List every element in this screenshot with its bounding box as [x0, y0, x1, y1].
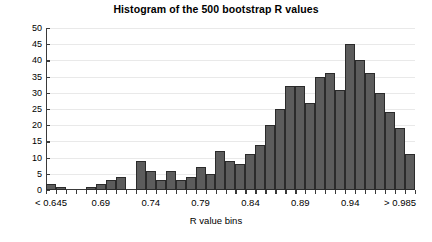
x-tick-mark [116, 190, 117, 194]
histogram-bar [196, 167, 206, 190]
x-tick-mark [166, 190, 167, 194]
x-tick-mark [265, 190, 266, 194]
histogram-bar [345, 44, 355, 190]
histogram-bar [156, 180, 166, 190]
x-tick-label: 0.79 [191, 197, 210, 208]
bar-slot [405, 28, 415, 190]
histogram-bar [305, 103, 315, 190]
bar-slot [196, 28, 206, 190]
histogram-bar [106, 180, 116, 190]
histogram-bar [335, 90, 345, 190]
bar-slot [86, 28, 96, 190]
x-tick-mark [196, 190, 197, 194]
y-tick-mark [46, 44, 50, 45]
bar-slot [295, 28, 305, 190]
bar-slot [166, 28, 176, 190]
x-tick-mark [56, 190, 57, 194]
bar-slot [315, 28, 325, 190]
x-tick-mark [136, 190, 137, 194]
bar-slot [116, 28, 126, 190]
y-tick-label: 15 [2, 137, 42, 146]
x-tick-mark [206, 190, 207, 194]
x-tick-mark [345, 190, 346, 194]
x-tick-mark [355, 190, 356, 194]
y-tick-label: 30 [2, 88, 42, 97]
histogram-bar [116, 177, 126, 190]
bar-slot [325, 28, 335, 190]
y-tick-label: 0 [2, 186, 42, 195]
x-tick-mark [156, 190, 157, 194]
bar-slot [305, 28, 315, 190]
x-tick-label: 0.84 [241, 197, 260, 208]
bar-slot [206, 28, 216, 190]
bar-slot [275, 28, 285, 190]
x-tick-mark [375, 190, 376, 194]
histogram-bar [315, 77, 325, 190]
bar-slot [126, 28, 136, 190]
plot-area [46, 28, 415, 190]
histogram-bar [235, 164, 245, 190]
x-tick-mark [245, 190, 246, 194]
y-axis-ticks: 05101520253035404550 [0, 28, 42, 190]
bar-slot [76, 28, 86, 190]
bar-slot [106, 28, 116, 190]
x-tick-mark [275, 190, 276, 194]
histogram-bars [46, 28, 415, 190]
y-tick-mark [46, 60, 50, 61]
x-axis-label: R value bins [0, 215, 432, 226]
x-tick-mark [415, 190, 416, 194]
bar-slot [385, 28, 395, 190]
x-tick-mark [325, 190, 326, 194]
bar-slot [186, 28, 196, 190]
histogram-bar [166, 171, 176, 190]
histogram-bar [146, 171, 156, 190]
x-tick-mark [305, 190, 306, 194]
y-tick-label: 25 [2, 105, 42, 114]
x-tick-label: 0.89 [291, 197, 310, 208]
bar-slot [96, 28, 106, 190]
y-tick-mark [46, 77, 50, 78]
y-tick-mark [46, 125, 50, 126]
x-tick-mark [365, 190, 366, 194]
histogram-bar [295, 86, 305, 190]
bar-slot [335, 28, 345, 190]
bar-slot [365, 28, 375, 190]
histogram-bar [385, 112, 395, 190]
x-tick-mark [106, 190, 107, 194]
x-tick-mark [216, 190, 217, 194]
histogram-bar [225, 161, 235, 190]
bar-slot [56, 28, 66, 190]
histogram-bar [136, 161, 146, 190]
histogram-bar [176, 180, 186, 190]
bar-slot [265, 28, 275, 190]
histogram-bar [186, 177, 196, 190]
x-tick-mark [86, 190, 87, 194]
x-tick-mark [226, 190, 227, 194]
x-tick-mark [96, 190, 97, 194]
y-tick-mark [46, 190, 50, 191]
bar-slot [285, 28, 295, 190]
histogram-figure: Histogram of the 500 bootstrap R values … [0, 0, 432, 242]
bar-slot [235, 28, 245, 190]
y-tick-mark [46, 28, 50, 29]
bar-slot [215, 28, 225, 190]
bar-slot [345, 28, 355, 190]
x-tick-label: < 0.645 [35, 197, 67, 208]
histogram-bar [206, 174, 216, 190]
y-tick-mark [46, 158, 50, 159]
histogram-bar [405, 154, 415, 190]
histogram-bar [245, 154, 255, 190]
bar-slot [245, 28, 255, 190]
x-tick-label: 0.74 [141, 197, 160, 208]
x-tick-mark [255, 190, 256, 194]
histogram-bar [275, 109, 285, 190]
x-tick-mark [146, 190, 147, 194]
bar-slot [146, 28, 156, 190]
bar-slot [375, 28, 385, 190]
y-tick-label: 40 [2, 56, 42, 65]
y-tick-mark [46, 174, 50, 175]
x-tick-label: 0.69 [92, 197, 111, 208]
histogram-bar [375, 93, 385, 190]
x-tick-label: 0.94 [341, 197, 360, 208]
bar-slot [136, 28, 146, 190]
